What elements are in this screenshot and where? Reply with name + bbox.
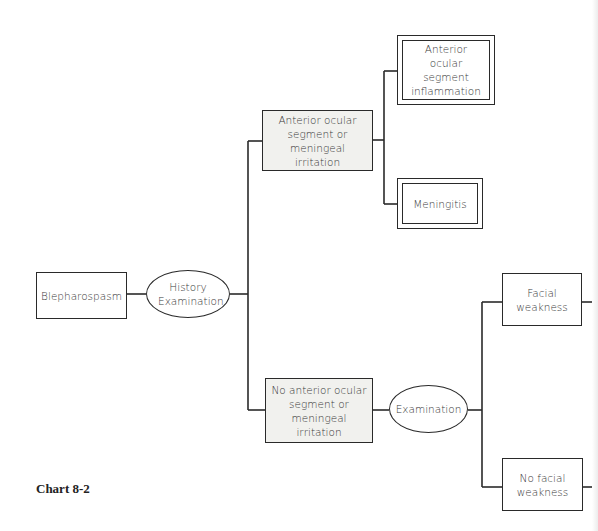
node-anterior-inflammation: Anterior ocular segment inflammation (397, 35, 495, 105)
node-label: No anterior ocular segment or meningeal … (271, 383, 367, 439)
node-label: No facial weakness (513, 471, 573, 499)
page-edge-shadow (592, 0, 598, 531)
node-blepharospasm: Blepharospasm (36, 272, 127, 319)
node-label: Anterior ocular segment inflammation (408, 42, 484, 98)
node-label: Blepharospasm (41, 289, 122, 303)
node-label: Facial weakness (512, 286, 572, 314)
node-examination: Examination (389, 385, 468, 433)
node-label: Anterior ocular segment or meningeal irr… (270, 113, 366, 169)
node-label: History Examination (158, 280, 218, 308)
node-facial-weakness: Facial weakness (502, 273, 582, 326)
node-label: Meningitis (413, 197, 466, 211)
node-label: Examination (396, 402, 462, 416)
connector-lines (0, 0, 598, 531)
node-no-facial-weakness: No facial weakness (502, 458, 583, 511)
node-history-examination: History Examination (146, 270, 230, 318)
node-no-irritation: No anterior ocular segment or meningeal … (265, 378, 373, 443)
node-anterior-irritation: Anterior ocular segment or meningeal irr… (262, 110, 373, 171)
node-meningitis: Meningitis (397, 178, 483, 229)
chart-caption: Chart 8-2 (36, 481, 90, 497)
